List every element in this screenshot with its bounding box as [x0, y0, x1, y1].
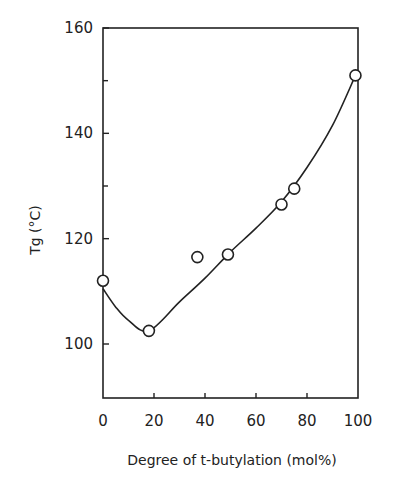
x-tick-label: 60 — [246, 412, 265, 430]
y-axis-title: Tg (°C) — [27, 205, 43, 256]
x-tick-label: 80 — [297, 412, 316, 430]
data-point — [222, 249, 233, 260]
x-tick-label: 100 — [344, 412, 373, 430]
x-axis-title: Degree of t-butylation (mol%) — [127, 452, 336, 468]
fitted-curve — [103, 75, 355, 331]
data-point — [276, 199, 287, 210]
data-point — [192, 252, 203, 263]
data-point — [350, 70, 361, 81]
y-tick-label: 120 — [64, 230, 93, 248]
x-tick-label: 0 — [98, 412, 108, 430]
data-points — [98, 70, 361, 336]
plot-frame — [103, 28, 358, 398]
tg-vs-butylation-chart: 100120140160 020406080100 Degree of t-bu… — [0, 0, 401, 486]
data-point — [143, 325, 154, 336]
data-point — [98, 275, 109, 286]
y-tick-label: 140 — [64, 124, 93, 142]
x-tick-label: 40 — [195, 412, 214, 430]
y-tick-label: 160 — [64, 19, 93, 37]
y-tick-label: 100 — [64, 335, 93, 353]
data-point — [289, 183, 300, 194]
x-tick-label: 20 — [144, 412, 163, 430]
